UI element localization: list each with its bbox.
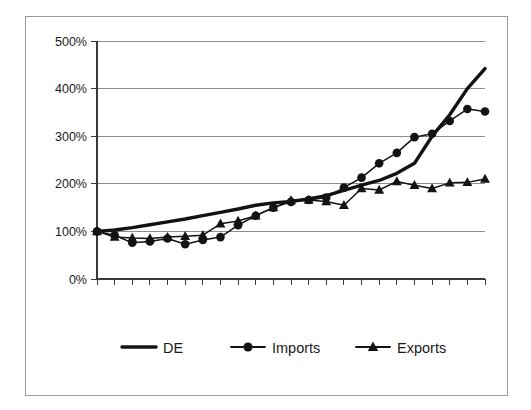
legend-label: Imports: [272, 340, 320, 356]
data-point-marker-circle: [428, 130, 437, 139]
data-point-marker-circle: [375, 159, 384, 168]
y-axis-tick-label: 100%: [55, 225, 87, 239]
legend-label: DE: [163, 340, 183, 356]
y-axis-tick-label: 200%: [55, 177, 87, 191]
data-point-marker-circle: [393, 149, 402, 158]
data-point-marker-circle: [445, 117, 454, 126]
legend-item-imports[interactable]: Imports: [231, 340, 320, 356]
series-layer: [92, 69, 490, 249]
data-point-marker-circle: [357, 173, 366, 182]
series-de: [97, 69, 485, 232]
y-axis-tick-label: 500%: [55, 35, 87, 49]
data-point-marker-circle: [340, 183, 349, 192]
data-point-marker-triangle: [480, 174, 490, 183]
series-line-exports: [97, 179, 485, 239]
line-chart: 0%100%200%300%400%500% DEImportsExports: [26, 17, 507, 395]
chart-legend: DEImportsExports: [122, 340, 446, 356]
y-axis-tick-label: 400%: [55, 82, 87, 96]
series-imports: [93, 105, 490, 249]
x-axis-ticks: [97, 279, 485, 285]
legend-label: Exports: [397, 340, 446, 356]
data-point-marker-circle: [410, 133, 419, 142]
legend-item-de[interactable]: DE: [122, 340, 183, 356]
data-point-marker-circle: [243, 342, 252, 351]
data-point-marker-circle: [481, 107, 490, 116]
series-line-de: [97, 69, 485, 232]
y-axis-tick-labels: 0%100%200%300%400%500%: [55, 35, 87, 287]
legend-item-exports[interactable]: Exports: [356, 340, 446, 356]
data-point-marker-circle: [216, 233, 225, 242]
y-axis-tick-label: 0%: [69, 273, 87, 287]
data-point-marker-circle: [463, 105, 472, 114]
chart-frame: 0%100%200%300%400%500% DEImportsExports: [25, 16, 508, 396]
y-axis-tick-label: 300%: [55, 130, 87, 144]
data-point-marker-circle: [181, 240, 190, 249]
figure-root: 0%100%200%300%400%500% DEImportsExports: [0, 0, 531, 410]
data-point-marker-triangle: [392, 176, 402, 185]
